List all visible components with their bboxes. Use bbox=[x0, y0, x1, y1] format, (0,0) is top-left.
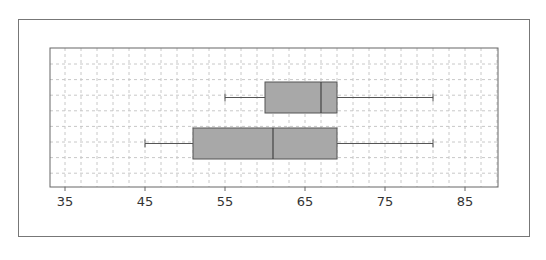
box-top bbox=[225, 82, 433, 113]
box-bottom bbox=[145, 128, 433, 159]
x-axis: 354555657585 bbox=[57, 187, 474, 209]
x-tick-label: 35 bbox=[57, 194, 74, 209]
x-tick-label: 45 bbox=[137, 194, 154, 209]
box-iqr bbox=[193, 128, 337, 159]
x-tick-label: 75 bbox=[377, 194, 394, 209]
x-tick-label: 55 bbox=[217, 194, 234, 209]
boxplot-chart: 354555657585 bbox=[0, 0, 546, 260]
x-tick-label: 85 bbox=[457, 194, 474, 209]
box-iqr bbox=[265, 82, 337, 113]
grid-lines bbox=[50, 48, 498, 187]
plot-area bbox=[50, 48, 498, 187]
x-tick-label: 65 bbox=[297, 194, 314, 209]
